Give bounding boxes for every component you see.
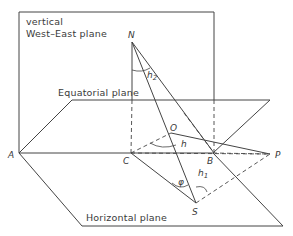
point-label-a: A xyxy=(7,150,14,160)
vertical-plane-label-line2: West–East plane xyxy=(26,28,107,39)
point-label-p: P xyxy=(275,150,281,160)
angle-label-phi: φ xyxy=(178,177,184,187)
horizontal-plane-label: Horizontal plane xyxy=(86,212,167,223)
equatorial-plane-label: Equatorial plane xyxy=(58,87,139,98)
angle-arc-h1 xyxy=(196,187,207,192)
angle-label-h1: h1 xyxy=(198,168,208,180)
sun-geometry-diagram: vertical West–East plane Equatorial plan… xyxy=(0,0,293,236)
vertical-plane-label-line1: vertical xyxy=(26,16,63,27)
point-label-c: C xyxy=(123,156,130,166)
angle-label-h: h xyxy=(181,139,187,149)
point-label-b: B xyxy=(207,156,213,166)
equatorial-plane xyxy=(19,100,270,153)
angle-label-h2: h2 xyxy=(147,70,158,82)
point-label-n: N xyxy=(128,30,135,40)
point-label-o: O xyxy=(170,123,177,133)
point-label-s: S xyxy=(192,207,198,217)
